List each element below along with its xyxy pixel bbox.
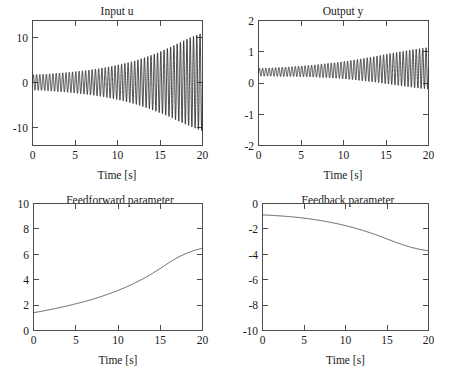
feedback-ytick-0: 0 bbox=[252, 198, 258, 210]
feedforward-axes-frame bbox=[34, 204, 203, 331]
feedback-xtick-0: 0 bbox=[260, 334, 266, 346]
feedback-chart: Feedback parameter 0 -2 -4 -6 -8 -10 bbox=[226, 189, 452, 378]
input-u-xtick-10: 10 bbox=[112, 149, 124, 161]
subplot-output-y: Output y 2 1 0 -1 -2 bbox=[226, 0, 452, 189]
input-u-xtick-0: 0 bbox=[30, 149, 36, 161]
feedback-xtick-5: 5 bbox=[301, 334, 307, 346]
feedback-title: Feedback parameter bbox=[302, 194, 395, 207]
feedforward-chart: Feedforward parameter 10 8 6 4 2 0 bbox=[0, 189, 226, 378]
feedback-y-ticks bbox=[263, 204, 429, 331]
input-u-title: Input u bbox=[101, 5, 134, 18]
feedforward-xtick-15: 15 bbox=[155, 334, 167, 346]
feedforward-ytick-8: 8 bbox=[23, 223, 29, 235]
feedback-axes-frame bbox=[263, 204, 429, 331]
feedforward-xtick-20: 20 bbox=[197, 334, 209, 346]
feedback-series-line bbox=[263, 215, 429, 251]
output-y-xtick-5: 5 bbox=[298, 149, 304, 161]
input-u-ytick-neg10: -10 bbox=[13, 122, 29, 134]
output-y-ytick-1: 1 bbox=[248, 46, 254, 58]
input-u-ytick-10: 10 bbox=[17, 32, 29, 44]
feedforward-ytick-6: 6 bbox=[23, 249, 29, 261]
input-u-xtick-15: 15 bbox=[154, 149, 166, 161]
figure-canvas: Input u 10 0 -10 bbox=[0, 0, 452, 378]
feedforward-ytick-2: 2 bbox=[23, 299, 29, 311]
subplot-input-u: Input u 10 0 -10 bbox=[0, 0, 226, 189]
output-y-ytick-0: 0 bbox=[248, 77, 254, 89]
feedforward-ytick-0: 0 bbox=[23, 325, 29, 337]
subplot-feedback-parameter: Feedback parameter 0 -2 -4 -6 -8 -10 bbox=[226, 189, 452, 378]
output-y-series-line bbox=[259, 48, 429, 89]
feedback-xtick-20: 20 bbox=[423, 334, 435, 346]
feedforward-y-ticks bbox=[34, 204, 203, 331]
feedback-ytick-neg10: -10 bbox=[243, 325, 259, 337]
feedforward-ytick-10: 10 bbox=[18, 198, 30, 210]
feedforward-xlabel: Time [s] bbox=[99, 354, 138, 366]
feedforward-ytick-4: 4 bbox=[23, 274, 29, 286]
output-y-title: Output y bbox=[323, 5, 364, 18]
output-y-y-ticks bbox=[259, 21, 429, 146]
feedback-x-ticks bbox=[263, 204, 429, 331]
input-u-chart: Input u 10 0 -10 bbox=[0, 0, 226, 189]
input-u-xtick-20: 20 bbox=[197, 149, 209, 161]
feedforward-xtick-5: 5 bbox=[73, 334, 79, 346]
feedback-ytick-neg4: -4 bbox=[248, 249, 258, 261]
output-y-ytick-2: 2 bbox=[248, 15, 254, 27]
subplot-feedforward-parameter: Feedforward parameter 10 8 6 4 2 0 bbox=[0, 189, 226, 378]
feedforward-series-line bbox=[34, 248, 203, 313]
output-y-xtick-10: 10 bbox=[338, 149, 350, 161]
output-y-axes-frame bbox=[259, 21, 429, 146]
output-y-x-ticks bbox=[259, 21, 429, 146]
output-y-xtick-0: 0 bbox=[256, 149, 262, 161]
feedforward-title: Feedforward parameter bbox=[66, 194, 174, 207]
feedback-xtick-15: 15 bbox=[381, 334, 393, 346]
input-u-xlabel: Time [s] bbox=[98, 169, 137, 181]
output-y-ytick-neg1: -1 bbox=[244, 109, 254, 121]
feedback-xtick-10: 10 bbox=[340, 334, 352, 346]
feedback-ytick-neg2: -2 bbox=[248, 223, 258, 235]
output-y-xtick-20: 20 bbox=[423, 149, 435, 161]
feedback-ytick-neg8: -8 bbox=[248, 299, 258, 311]
output-y-ytick-neg2: -2 bbox=[244, 140, 254, 152]
input-u-series-line bbox=[33, 34, 203, 131]
feedforward-xtick-10: 10 bbox=[112, 334, 124, 346]
input-u-ytick-0: 0 bbox=[22, 77, 28, 89]
feedback-ytick-neg6: -6 bbox=[248, 274, 258, 286]
output-y-xlabel: Time [s] bbox=[324, 169, 363, 181]
output-y-xtick-15: 15 bbox=[380, 149, 392, 161]
feedback-xlabel: Time [s] bbox=[326, 354, 365, 366]
output-y-chart: Output y 2 1 0 -1 -2 bbox=[226, 0, 452, 189]
feedforward-x-ticks bbox=[34, 204, 203, 331]
input-u-xtick-5: 5 bbox=[72, 149, 78, 161]
feedforward-xtick-0: 0 bbox=[31, 334, 37, 346]
